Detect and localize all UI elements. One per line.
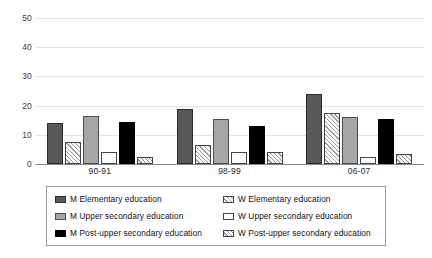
bar-group-98-99: [165, 18, 295, 164]
legend-item-m-upper-secondary: M Upper secondary education: [55, 208, 217, 225]
legend-label: W Post-upper secondary education: [238, 229, 371, 238]
bar-w-post-upper-98-99: [267, 152, 283, 164]
legend-item-w-post-upper-secondary: W Post-upper secondary education: [223, 225, 379, 242]
bar-groups: [35, 18, 424, 164]
legend-swatch-icon: [223, 213, 234, 220]
bar-m-upper-90-91: [83, 116, 99, 164]
legend-item-m-elementary: M Elementary education: [55, 191, 217, 208]
legend-swatch-icon: [55, 230, 66, 237]
y-tick-label: 10: [2, 130, 32, 139]
legend-item-w-elementary: W Elementary education: [223, 191, 379, 208]
x-tick-label: 06-07: [294, 166, 424, 176]
chart-legend: M Elementary education M Upper secondary…: [46, 186, 386, 246]
bar-m-elementary-06-07: [306, 94, 322, 164]
bar-m-post-upper-98-99: [249, 126, 265, 164]
bar-w-upper-06-07: [360, 157, 376, 164]
legend-column-male: M Elementary education M Upper secondary…: [55, 191, 217, 242]
legend-label: M Post-upper secondary education: [70, 229, 202, 238]
legend-label: M Elementary education: [70, 195, 162, 204]
legend-item-m-post-upper-secondary: M Post-upper secondary education: [55, 225, 217, 242]
x-tick-label: 98-99: [165, 166, 295, 176]
bar-w-upper-90-91: [101, 152, 117, 164]
legend-label: W Elementary education: [238, 195, 331, 204]
x-axis: 90-91 98-99 06-07: [35, 166, 424, 176]
axis-baseline: [35, 164, 424, 165]
y-tick-label: 30: [2, 72, 32, 81]
bar-w-upper-98-99: [231, 152, 247, 164]
bar-w-elementary-06-07: [324, 113, 340, 164]
bar-chart: 50 40 30 20 10 0: [0, 0, 432, 258]
legend-swatch-icon: [223, 230, 234, 237]
legend-label: M Upper secondary education: [70, 212, 183, 221]
y-tick-label: 0: [2, 160, 32, 169]
legend-item-w-upper-secondary: W Upper secondary education: [223, 208, 379, 225]
bar-m-post-upper-90-91: [119, 122, 135, 164]
bar-m-elementary-98-99: [177, 109, 193, 164]
y-tick-label: 50: [2, 14, 32, 23]
bar-m-upper-98-99: [213, 119, 229, 164]
bar-w-post-upper-06-07: [396, 154, 412, 164]
plot-canvas: [35, 18, 424, 164]
bar-w-post-upper-90-91: [137, 157, 153, 164]
legend-column-female: W Elementary education W Upper secondary…: [217, 191, 379, 242]
y-tick-label: 20: [2, 101, 32, 110]
legend-label: W Upper secondary education: [238, 212, 352, 221]
bar-m-elementary-90-91: [47, 123, 63, 164]
y-axis: 50 40 30 20 10 0: [0, 0, 32, 178]
bar-m-upper-06-07: [342, 117, 358, 164]
plot-area: 50 40 30 20 10 0: [0, 0, 432, 178]
bar-w-elementary-90-91: [65, 142, 81, 164]
bar-w-elementary-98-99: [195, 145, 211, 164]
bar-m-post-upper-06-07: [378, 119, 394, 164]
y-tick-label: 40: [2, 43, 32, 52]
x-tick-label: 90-91: [35, 166, 165, 176]
bar-group-06-07: [294, 18, 424, 164]
legend-swatch-icon: [55, 196, 66, 203]
legend-swatch-icon: [55, 213, 66, 220]
legend-swatch-icon: [223, 196, 234, 203]
bar-group-90-91: [35, 18, 165, 164]
